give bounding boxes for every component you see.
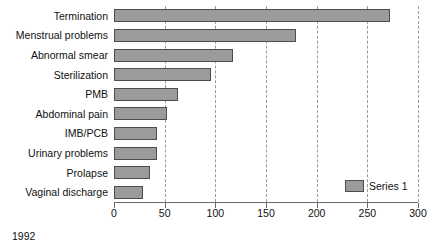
x-tick-label-100: 100: [207, 207, 225, 219]
bar: [114, 186, 143, 199]
bar: [114, 166, 150, 179]
bar: [114, 49, 233, 62]
legend-label-series-1: Series 1: [369, 180, 408, 192]
x-tick-label-0: 0: [111, 207, 117, 219]
bar: [114, 127, 157, 140]
category-label: Urinary problems: [0, 147, 108, 159]
category-label: Sterilization: [0, 69, 108, 81]
category-label: Termination: [0, 10, 108, 22]
bar: [114, 9, 390, 22]
category-label: PMB: [0, 88, 108, 100]
gridline-200: [317, 6, 318, 202]
legend-swatch-series-1: [345, 180, 364, 192]
gridline-250: [367, 6, 368, 202]
x-tick-label-300: 300: [409, 207, 427, 219]
x-tick-label-150: 150: [257, 207, 275, 219]
plot-area: [114, 6, 418, 202]
footnote-year: 1992: [12, 230, 35, 242]
category-label: Abdominal pain: [0, 108, 108, 120]
bar-chart: TerminationMenstrual problemsAbnormal sm…: [0, 0, 428, 249]
category-label: Prolapse: [0, 167, 108, 179]
bar: [114, 88, 178, 101]
bar: [114, 29, 296, 42]
bar: [114, 107, 167, 120]
x-tick-label-200: 200: [308, 207, 326, 219]
bar: [114, 68, 211, 81]
category-label: Menstrual problems: [0, 29, 108, 41]
category-label: Abnormal smear: [0, 49, 108, 61]
x-axis-line: [114, 202, 418, 203]
legend: Series 1: [345, 180, 408, 192]
bar: [114, 147, 157, 160]
category-label: IMB/PCB: [0, 127, 108, 139]
category-axis-labels: TerminationMenstrual problemsAbnormal sm…: [0, 6, 108, 202]
x-tick-label-50: 50: [159, 207, 171, 219]
x-tick-label-250: 250: [359, 207, 377, 219]
gridline-300: [418, 6, 419, 202]
category-label: Vaginal discharge: [0, 186, 108, 198]
